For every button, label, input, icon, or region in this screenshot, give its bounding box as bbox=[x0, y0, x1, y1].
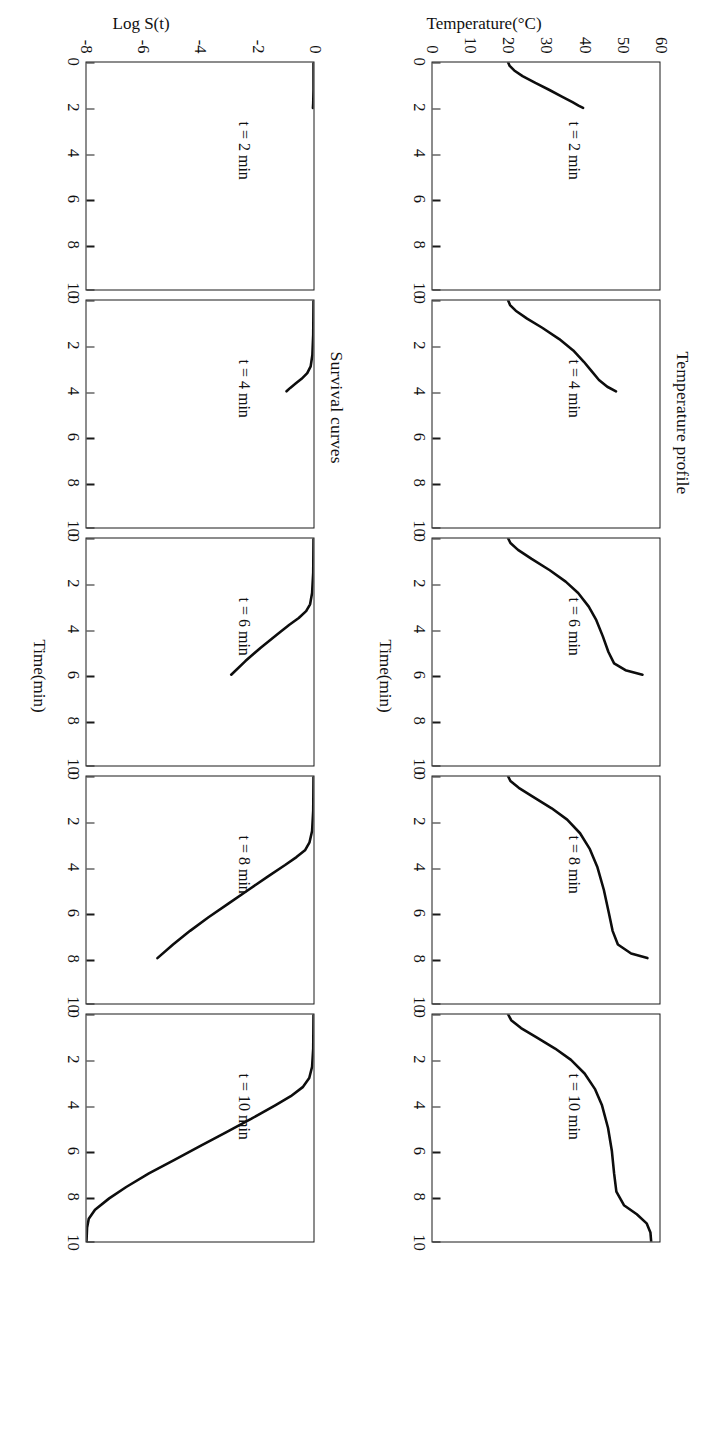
x-tick-label: 8 bbox=[63, 955, 83, 963]
x-tick-label: 2 bbox=[63, 1056, 83, 1064]
curve-survival-t8 bbox=[87, 777, 314, 1004]
y-tick-label: 10 bbox=[460, 38, 480, 55]
y-tick-label: 40 bbox=[575, 38, 595, 55]
x-tick-mark bbox=[87, 1004, 95, 1005]
x-tick-label: 6 bbox=[409, 909, 429, 917]
y-tick-label: 50 bbox=[613, 38, 633, 55]
temperature-row-title: Temperature profile bbox=[672, 352, 693, 495]
curve-temperature-t2 bbox=[433, 63, 660, 290]
figure-canvas: Temperature profile Temperature(°C) Time… bbox=[0, 0, 701, 1450]
panel-label-temperature-t8: t = 8 min bbox=[565, 836, 583, 894]
x-tick-label: 4 bbox=[63, 387, 83, 395]
temperature-y-tick-labels: 6050403020100 bbox=[432, 0, 661, 58]
plot-panel-temperature-t4 bbox=[432, 300, 661, 529]
survival-t6-x-tick-labels: 0246810 bbox=[59, 538, 83, 767]
y-tick-label: 0 bbox=[305, 46, 325, 54]
x-tick-label: 2 bbox=[409, 818, 429, 826]
panel-label-temperature-t4: t = 4 min bbox=[565, 360, 583, 418]
x-tick-label: 4 bbox=[63, 625, 83, 633]
x-tick-label: 2 bbox=[63, 104, 83, 112]
x-tick-label: 6 bbox=[63, 433, 83, 441]
x-tick-mark bbox=[87, 290, 95, 291]
temperature-t6-x-tick-labels: 0246810 bbox=[405, 538, 429, 767]
curve-survival-t2 bbox=[87, 63, 314, 290]
curve-temperature-t6 bbox=[433, 539, 660, 766]
y-tick-label: -6 bbox=[133, 40, 153, 54]
plot-panel-survival-t6 bbox=[86, 538, 315, 767]
x-tick-mark bbox=[433, 1242, 441, 1243]
temperature-t8-x-tick-labels: 0246810 bbox=[405, 776, 429, 1005]
x-tick-label: 2 bbox=[409, 342, 429, 350]
x-tick-label: 0 bbox=[409, 58, 429, 66]
x-tick-label: 10 bbox=[409, 1235, 429, 1252]
plot-panel-temperature-t6 bbox=[432, 538, 661, 767]
curve-survival-t6 bbox=[87, 539, 314, 766]
survival-t4-x-tick-labels: 0246810 bbox=[59, 300, 83, 529]
x-tick-label: 6 bbox=[63, 671, 83, 679]
x-tick-mark bbox=[433, 766, 441, 767]
x-tick-label: 0 bbox=[409, 772, 429, 780]
panel-label-temperature-t10: t = 10 min bbox=[565, 1074, 583, 1140]
x-tick-label: 6 bbox=[409, 195, 429, 203]
x-tick-mark bbox=[87, 528, 95, 529]
x-tick-label: 2 bbox=[409, 104, 429, 112]
x-tick-label: 0 bbox=[63, 1010, 83, 1018]
panel-label-survival-t10: t = 10 min bbox=[235, 1074, 253, 1140]
temperature-profile-row: Temperature profile Temperature(°C) Time… bbox=[365, 0, 695, 1450]
x-tick-label: 4 bbox=[409, 149, 429, 157]
x-tick-label: 6 bbox=[63, 195, 83, 203]
temperature-t4-x-tick-labels: 0246810 bbox=[405, 300, 429, 529]
survival-t2-x-tick-labels: 0246810 bbox=[59, 62, 83, 291]
figure-rotation-wrapper: Temperature profile Temperature(°C) Time… bbox=[0, 0, 701, 1450]
y-tick-label: 60 bbox=[651, 38, 671, 55]
x-tick-label: 2 bbox=[63, 818, 83, 826]
x-tick-label: 10 bbox=[63, 1235, 83, 1252]
plot-panel-temperature-t2 bbox=[432, 62, 661, 291]
x-tick-label: 8 bbox=[409, 955, 429, 963]
x-tick-label: 0 bbox=[409, 534, 429, 542]
y-tick-label: 0 bbox=[422, 46, 442, 54]
survival-row-title: Survival curves bbox=[326, 352, 347, 464]
x-tick-mark bbox=[433, 1004, 441, 1005]
x-tick-label: 6 bbox=[63, 1147, 83, 1155]
temperature-x-axis-label: Time(min) bbox=[375, 640, 395, 713]
x-tick-label: 4 bbox=[409, 387, 429, 395]
x-tick-label: 0 bbox=[63, 296, 83, 304]
panel-label-survival-t6: t = 6 min bbox=[235, 598, 253, 656]
x-tick-label: 8 bbox=[63, 717, 83, 725]
x-tick-mark bbox=[87, 1242, 95, 1243]
plot-panel-survival-t10 bbox=[86, 1014, 315, 1243]
panel-label-survival-t4: t = 4 min bbox=[235, 360, 253, 418]
panel-label-survival-t2: t = 2 min bbox=[235, 122, 253, 180]
y-tick-label: 30 bbox=[537, 38, 557, 55]
x-tick-label: 2 bbox=[63, 342, 83, 350]
x-tick-label: 0 bbox=[63, 772, 83, 780]
curve-survival-t10 bbox=[87, 1015, 314, 1242]
x-tick-label: 0 bbox=[63, 534, 83, 542]
x-tick-label: 8 bbox=[409, 717, 429, 725]
survival-x-axis-label: Time(min) bbox=[29, 640, 49, 713]
x-tick-label: 6 bbox=[63, 909, 83, 917]
curve-temperature-t4 bbox=[433, 301, 660, 528]
x-tick-label: 4 bbox=[63, 863, 83, 871]
x-tick-label: 4 bbox=[409, 625, 429, 633]
x-tick-label: 4 bbox=[63, 1101, 83, 1109]
x-tick-label: 4 bbox=[63, 149, 83, 157]
temperature-t2-x-tick-labels: 0246810 bbox=[405, 62, 429, 291]
x-tick-label: 6 bbox=[409, 433, 429, 441]
curve-temperature-t10 bbox=[433, 1015, 660, 1242]
y-tick-label: -2 bbox=[248, 40, 268, 54]
x-tick-label: 6 bbox=[409, 1147, 429, 1155]
x-tick-label: 2 bbox=[409, 580, 429, 588]
curve-survival-t4 bbox=[87, 301, 314, 528]
survival-t8-x-tick-labels: 0246810 bbox=[59, 776, 83, 1005]
panel-label-survival-t8: t = 8 min bbox=[235, 836, 253, 894]
survival-t10-x-tick-labels: 0246810 bbox=[59, 1014, 83, 1243]
x-tick-label: 4 bbox=[409, 1101, 429, 1109]
panel-label-temperature-t2: t = 2 min bbox=[565, 122, 583, 180]
x-tick-label: 8 bbox=[409, 479, 429, 487]
plot-panel-survival-t4 bbox=[86, 300, 315, 529]
y-tick-label: 20 bbox=[498, 38, 518, 55]
x-tick-mark bbox=[433, 290, 441, 291]
x-tick-label: 0 bbox=[409, 1010, 429, 1018]
